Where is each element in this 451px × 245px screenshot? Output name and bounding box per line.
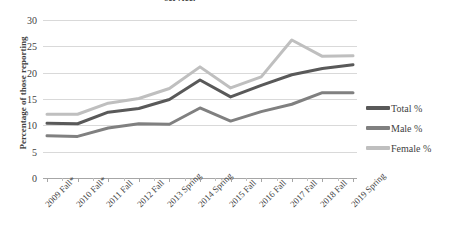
legend-label: Male %: [390, 123, 422, 134]
x-axis-tick: [322, 178, 323, 182]
x-axis-tick-label: 2011 Fall: [104, 178, 135, 209]
x-axis-tick-label: 2010 Fall*: [74, 175, 108, 209]
y-axis-tick-label: 30: [27, 15, 37, 26]
y-axis-tick-label: 10: [27, 120, 37, 131]
x-axis-tick: [200, 178, 201, 182]
x-axis-tick-label: 2018 Fall: [318, 178, 349, 209]
legend-swatch-icon: [366, 146, 390, 150]
legend-item[interactable]: Total %: [366, 98, 451, 118]
x-axis-tick: [169, 178, 170, 182]
y-axis-tick-label: 0: [32, 173, 37, 184]
plot-area: 051015202530 2009 Fall*2010 Fall*2011 Fa…: [43, 20, 357, 178]
legend-label: Total %: [390, 103, 422, 114]
x-axis-tick: [47, 178, 48, 182]
x-axis-tick-label: 2017 Fall: [288, 178, 319, 209]
series-line-total: [47, 65, 353, 124]
x-axis-tick-label: 2016 Fall: [257, 178, 288, 209]
chart-title: service.: [0, 0, 360, 5]
x-axis-tick: [231, 178, 232, 182]
y-axis-tick-label: 20: [27, 67, 37, 78]
series-lines: [43, 20, 357, 178]
x-axis-tick: [108, 178, 109, 182]
chart-legend: Total %Male %Female %: [366, 98, 451, 158]
x-axis-tick: [78, 178, 79, 182]
x-axis-tick-label: 2015 Fall: [227, 178, 258, 209]
x-axis-tick: [353, 178, 354, 182]
x-axis-tick-label: 2009 Fall*: [43, 175, 77, 209]
x-axis-tick: [292, 178, 293, 182]
legend-label: Female %: [390, 143, 431, 154]
legend-swatch-icon: [366, 126, 390, 130]
x-axis-tick-label: 2012 Fall: [135, 178, 166, 209]
line-chart: service. Percentage of those reporting 0…: [0, 0, 451, 245]
legend-item[interactable]: Female %: [366, 138, 451, 158]
y-axis-tick-label: 5: [32, 146, 37, 157]
x-axis-tick: [261, 178, 262, 182]
legend-item[interactable]: Male %: [366, 118, 451, 138]
legend-swatch-icon: [366, 106, 390, 110]
y-axis-tick-label: 15: [27, 94, 37, 105]
y-axis-tick-label: 25: [27, 41, 37, 52]
x-axis-tick: [139, 178, 140, 182]
series-line-female: [47, 40, 353, 114]
series-line-male: [47, 93, 353, 137]
